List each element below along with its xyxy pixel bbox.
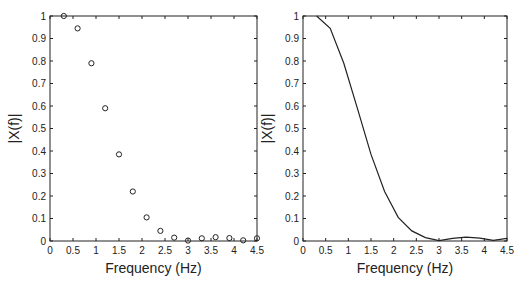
data-point [172,235,177,240]
x-tick-label: 2.5 [409,245,423,256]
y-tick-label: 0.8 [285,56,299,67]
x-tick-label: 3.5 [204,245,218,256]
x-tick-label: 1 [93,245,99,256]
y-tick-label: 1 [293,11,299,22]
y-tick-label: 0.1 [285,213,299,224]
y-tick-label: 0.6 [285,101,299,112]
figure: 00.511.522.533.544.500.10.20.30.40.50.60… [0,0,523,286]
y-tick-label: 0.3 [32,168,46,179]
data-point [213,235,218,240]
y-tick-label: 0.9 [32,33,46,44]
data-point [75,26,80,31]
y-tick-label: 0.1 [32,213,46,224]
x-tick-label: 2.5 [158,245,172,256]
y-tick-label: 0.5 [285,123,299,134]
data-point [144,215,149,220]
line-series [317,16,507,241]
scatter-series [61,13,259,243]
x-tick-label: 1.5 [364,245,378,256]
x-tick-label: 0.5 [66,245,80,256]
y-tick-label: 0 [40,236,46,247]
data-point [241,238,246,243]
y-tick-label: 0.2 [32,191,46,202]
data-point [158,228,163,233]
data-point [199,236,204,241]
x-tick-label: 3 [436,245,442,256]
x-tick-label: 0 [47,245,53,256]
data-point [227,235,232,240]
y-axis-label: |X(f)| [6,114,22,144]
x-axis-label: Frequency (Hz) [357,260,453,276]
x-tick-label: 1 [346,245,352,256]
x-tick-label: 4.5 [500,245,514,256]
data-point [116,152,121,157]
y-tick-label: 0.2 [285,191,299,202]
data-point [89,61,94,66]
y-tick-label: 0.6 [32,101,46,112]
y-tick-label: 0.7 [285,78,299,89]
x-tick-label: 3.5 [455,245,469,256]
x-tick-label: 3 [185,245,191,256]
plot-frame [50,16,257,241]
x-tick-label: 0.5 [319,245,333,256]
y-tick-label: 0.5 [32,123,46,134]
plot-frame [303,16,507,241]
x-tick-label: 2 [139,245,145,256]
y-tick-label: 0.9 [285,33,299,44]
data-point [103,106,108,111]
x-tick-label: 2 [391,245,397,256]
y-tick-label: 0.4 [285,146,299,157]
y-tick-label: 0 [293,236,299,247]
x-axis-label: Frequency (Hz) [105,260,201,276]
axes-left: 00.511.522.533.544.500.10.20.30.40.50.60… [6,11,264,277]
axes-right: 00.511.522.533.544.500.10.20.30.40.50.60… [259,11,514,277]
x-tick-label: 4 [231,245,237,256]
y-tick-label: 0.4 [32,146,46,157]
y-tick-label: 0.3 [285,168,299,179]
x-tick-label: 4.5 [250,245,264,256]
x-tick-label: 0 [300,245,306,256]
y-axis-label: |X(f)| [259,114,275,144]
x-tick-label: 4 [482,245,488,256]
y-tick-label: 0.8 [32,56,46,67]
data-point [130,189,135,194]
y-tick-label: 1 [40,11,46,22]
x-tick-label: 1.5 [112,245,126,256]
y-tick-label: 0.7 [32,78,46,89]
